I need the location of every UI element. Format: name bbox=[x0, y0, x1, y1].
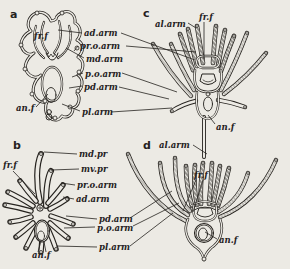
panel-d-mouth bbox=[197, 208, 213, 217]
label-pro-arm-ac: pr.o.arm bbox=[80, 41, 120, 51]
panel-d-stomach bbox=[195, 224, 214, 243]
label-md-arm-ac: md.arm bbox=[86, 54, 123, 64]
panel-c-mouth bbox=[200, 74, 216, 85]
label-ad-arm-bd: ad.arm bbox=[76, 194, 109, 204]
label-anf-a: an.f bbox=[16, 103, 36, 113]
panel-b-mouth bbox=[37, 205, 43, 211]
zoology-figure: a b c d fr.f an.f ad.arm pr.o.arm md.arm… bbox=[0, 0, 290, 269]
label-anf-b: an.f bbox=[32, 250, 52, 260]
label-frf-a: fr.f bbox=[33, 31, 49, 41]
label-frf-c: fr.f bbox=[198, 12, 214, 22]
panel-letter-d: d bbox=[143, 139, 151, 152]
label-po-arm-bd: p.o.arm bbox=[97, 223, 133, 233]
label-ad-arm-ac: ad.arm bbox=[84, 28, 117, 38]
label-anf-c: an.f bbox=[216, 122, 236, 132]
label-pl-arm-ac: pl.arm bbox=[82, 107, 113, 117]
panel-letter-b: b bbox=[13, 139, 21, 152]
label-pro-arm-bd: pr.o.arm bbox=[77, 180, 117, 190]
label-po-arm-ac: p.o.arm bbox=[85, 69, 121, 79]
label-pd-arm-ac: pd.arm bbox=[84, 82, 118, 92]
label-mv-pr-bd: mv.pr bbox=[81, 164, 108, 174]
label-frf-d: fr.f bbox=[193, 170, 209, 180]
panel-letter-a: a bbox=[10, 8, 17, 21]
label-md-pr-bd: md.pr bbox=[79, 149, 108, 159]
label-anf-d: an.f bbox=[219, 235, 239, 245]
label-al-arm-d: al.arm bbox=[159, 140, 190, 150]
panel-b-stomach bbox=[35, 220, 50, 242]
label-al-arm-c: al.arm bbox=[155, 19, 186, 29]
label-pl-arm-bd: pl.arm bbox=[99, 242, 130, 252]
panel-letter-c: c bbox=[143, 7, 150, 20]
label-frf-b: fr.f bbox=[2, 160, 18, 170]
panel-d-posterior-knob bbox=[202, 257, 206, 261]
